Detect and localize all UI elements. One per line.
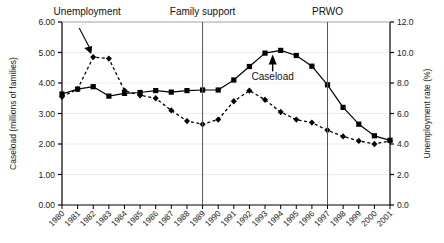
data-point-caseload (216, 87, 221, 92)
data-point-caseload (278, 48, 283, 53)
event-marker-label-family-support: Family support (170, 6, 236, 17)
data-point-caseload (262, 51, 267, 56)
y-axis-title-left: Caseload (millions of families) (8, 57, 18, 170)
data-point-caseload (356, 122, 361, 127)
y-tick-label-left: 1.00 (38, 170, 55, 180)
y-tick-label-left: 5.00 (38, 48, 55, 58)
chart-background (0, 0, 444, 243)
y-tick-label-right: 2.0 (397, 170, 409, 180)
y-tick-label-left: 3.00 (38, 109, 55, 119)
y-tick-label-right: 4.0 (397, 139, 409, 149)
unemployment-annotation-label: Unemployment (54, 6, 121, 17)
data-point-caseload (106, 94, 111, 99)
dual-axis-line-chart: 0.001.002.003.004.005.006.000.02.04.06.0… (0, 0, 444, 243)
chart-container: 0.001.002.003.004.005.006.000.02.04.06.0… (0, 0, 444, 243)
y-tick-label-left: 0.00 (38, 200, 55, 210)
data-point-caseload (294, 53, 299, 58)
y-tick-label-right: 6.0 (397, 109, 409, 119)
data-point-caseload (372, 133, 377, 138)
y-tick-label-left: 2.00 (38, 139, 55, 149)
event-marker-label-prwo: PRWO (312, 6, 343, 17)
y-tick-label-left: 4.00 (38, 78, 55, 88)
data-point-caseload (169, 90, 174, 95)
y-axis-title-right: Unemployment rate (%) (422, 68, 432, 158)
data-point-caseload (341, 105, 346, 110)
y-tick-label-left: 6.00 (38, 17, 55, 27)
data-point-caseload (231, 77, 236, 82)
caseload-annotation-label: Caseload (252, 71, 294, 82)
data-point-caseload (91, 84, 96, 89)
y-tick-label-right: 8.0 (397, 78, 409, 88)
y-tick-label-right: 10.0 (397, 48, 414, 58)
data-point-caseload (153, 88, 158, 93)
y-tick-label-right: 0.0 (397, 200, 409, 210)
y-tick-label-right: 12.0 (397, 17, 414, 27)
data-point-caseload (309, 64, 314, 69)
data-point-caseload (247, 64, 252, 69)
data-point-caseload (184, 88, 189, 93)
